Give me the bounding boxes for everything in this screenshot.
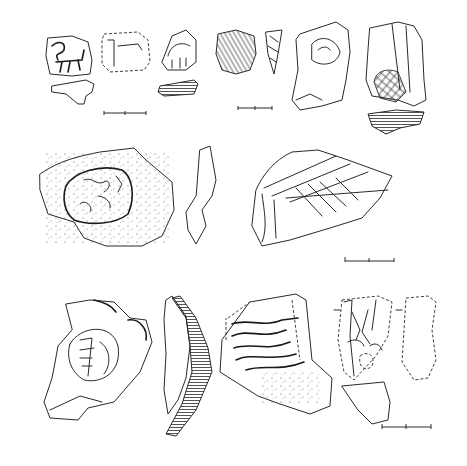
sherd-7 bbox=[366, 22, 426, 134]
sherd-8 bbox=[40, 148, 174, 246]
sherd-12 bbox=[164, 296, 212, 436]
sherd-11 bbox=[44, 300, 152, 420]
sherd-13 bbox=[220, 294, 332, 414]
sherd-4 bbox=[216, 30, 256, 74]
sherd-6 bbox=[292, 22, 350, 110]
scale-bar-bottom bbox=[382, 424, 431, 429]
scale-bar-middle bbox=[345, 257, 394, 262]
sherd-1 bbox=[46, 36, 94, 104]
scale-bar-top-left bbox=[104, 111, 146, 115]
sherd-14 bbox=[334, 296, 436, 424]
sherd-10 bbox=[252, 150, 392, 246]
sherd-5 bbox=[266, 30, 282, 74]
sherd-3 bbox=[158, 30, 198, 96]
sherd-2 bbox=[102, 32, 150, 72]
sherd-9 bbox=[186, 146, 216, 244]
scale-bar-top-right bbox=[238, 106, 272, 110]
drawing-plate bbox=[0, 0, 467, 466]
